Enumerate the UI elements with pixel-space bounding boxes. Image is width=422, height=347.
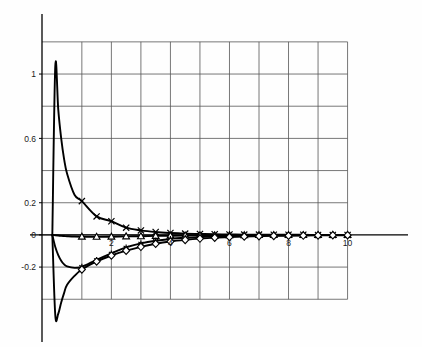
y-tick-label: 1 bbox=[31, 69, 36, 79]
axis-lines bbox=[30, 14, 408, 342]
decay-curves-chart: 24681010.60.20-0.2 bbox=[0, 0, 422, 347]
y-tick-label: -0.2 bbox=[21, 262, 36, 272]
y-tick-label: 0.2 bbox=[24, 198, 36, 208]
chart-figure: 24681010.60.20-0.2 bbox=[0, 0, 422, 347]
marker-diamond bbox=[256, 233, 263, 240]
x-tick-label: 2 bbox=[109, 238, 114, 248]
grid-lines bbox=[42, 42, 348, 299]
x-tick-label: 10 bbox=[343, 238, 353, 248]
marker-x-cross bbox=[94, 213, 100, 219]
x-tick-label: 8 bbox=[286, 238, 291, 248]
y-tick-label: 0.6 bbox=[24, 134, 36, 144]
x-tick-label: 4 bbox=[168, 238, 173, 248]
x-tick-label: 6 bbox=[227, 238, 232, 248]
marker-diamond bbox=[270, 232, 277, 239]
y-tick-label: 0 bbox=[31, 230, 36, 240]
